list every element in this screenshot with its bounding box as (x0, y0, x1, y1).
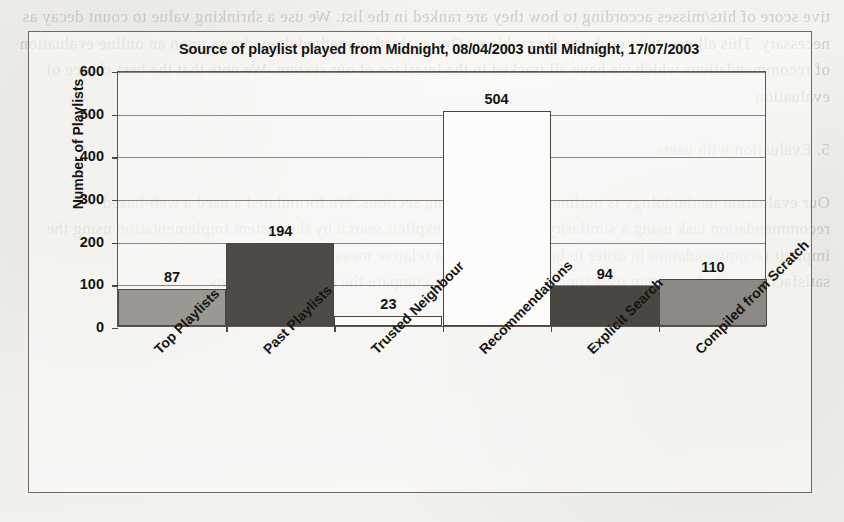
y-tick-label-500: 500 (44, 106, 104, 122)
y-tick-mark-0 (112, 328, 118, 329)
bar-value-label: 194 (226, 223, 334, 239)
y-tick-mark-100 (112, 285, 118, 286)
y-tick-mark-200 (112, 243, 118, 244)
y-tick-label-600: 600 (44, 63, 104, 79)
bar-value-label: 87 (118, 269, 226, 285)
gridline-300 (118, 200, 765, 201)
gridline-500 (118, 115, 765, 116)
x-tick-mark (334, 326, 335, 332)
chart-frame: Source of playlist played from Midnight,… (28, 31, 812, 493)
x-tick-mark (443, 326, 444, 332)
y-tick-label-0: 0 (44, 319, 104, 335)
gridline-600 (118, 72, 765, 73)
y-tick-mark-400 (112, 157, 118, 158)
x-tick-mark (551, 326, 552, 332)
y-tick-label-400: 400 (44, 148, 104, 164)
chart-title: Source of playlist played from Midnight,… (89, 41, 789, 57)
bar-value-label: 110 (659, 259, 767, 275)
y-tick-mark-300 (112, 200, 118, 201)
gridline-400 (118, 157, 765, 158)
y-tick-label-300: 300 (44, 191, 104, 207)
y-tick-mark-600 (112, 72, 118, 73)
gridline-200 (118, 243, 765, 244)
x-tick-mark (659, 326, 660, 332)
y-tick-mark-500 (112, 115, 118, 116)
bar (226, 243, 334, 326)
x-tick-mark (226, 326, 227, 332)
y-tick-label-100: 100 (44, 276, 104, 292)
y-tick-label-200: 200 (44, 234, 104, 250)
bar-value-label: 504 (443, 91, 551, 107)
